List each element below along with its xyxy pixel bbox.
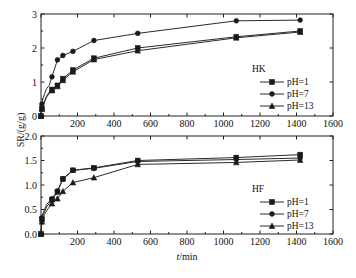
x-tick-label: 1200 — [250, 118, 270, 129]
data-point — [61, 53, 66, 58]
legend-hf: HFpH=1pH=7pH=13 — [252, 184, 314, 231]
legend-marker — [270, 200, 275, 205]
hk-plot-svg: 20040060080010001200140016000123HKpH=1pH… — [0, 0, 356, 140]
figure-root: 20040060080010001200140016000123HKpH=1pH… — [0, 0, 356, 278]
legend-title: HK — [252, 64, 266, 74]
x-tick-label: 800 — [180, 236, 195, 247]
x-tick-label: 1200 — [250, 236, 270, 247]
legend-label: pH=7 — [287, 89, 309, 99]
data-point — [50, 75, 55, 80]
y-tick-label: 3 — [32, 9, 37, 20]
y-tick-label: 2 — [32, 43, 37, 54]
x-tick-label: 600 — [143, 118, 158, 129]
data-point — [71, 168, 76, 173]
legend-label: pH=1 — [287, 77, 309, 87]
x-tick-label: 1400 — [287, 118, 307, 129]
x-tick-label: 1600 — [323, 118, 343, 129]
chart-panel-hf: 20040060080010001200140016000.00.51.01.5… — [0, 130, 356, 278]
y-tick-label: 0.0 — [25, 229, 38, 240]
y-tick-label: 0.5 — [25, 204, 38, 215]
x-tick-label: 400 — [107, 236, 122, 247]
series-pH13 — [38, 157, 303, 236]
legend-label: pH=13 — [287, 221, 314, 231]
chart-panel-hk: 20040060080010001200140016000123HKpH=1pH… — [0, 0, 356, 140]
hf-plot-svg: 20040060080010001200140016000.00.51.01.5… — [0, 130, 356, 278]
x-tick-label: 200 — [70, 118, 85, 129]
data-point — [92, 38, 97, 43]
legend-marker — [270, 80, 275, 85]
x-axis-title-unit: /min — [179, 251, 197, 262]
x-axis-title: t/min — [176, 251, 197, 262]
data-point — [135, 31, 140, 36]
y-tick-label: 1.0 — [25, 180, 38, 191]
series-line — [41, 158, 300, 234]
data-point — [234, 18, 239, 23]
data-point — [55, 188, 60, 193]
x-tick-label: 600 — [143, 236, 158, 247]
legend-hk: HKpH=1pH=7pH=13 — [252, 64, 314, 111]
series-pH1 — [39, 152, 303, 236]
series-line — [41, 160, 300, 234]
x-tick-label: 200 — [70, 236, 85, 247]
legend-label: pH=7 — [287, 209, 309, 219]
data-point — [55, 58, 60, 63]
y-axis-label-text: SR/(g/g) — [15, 113, 26, 147]
x-tick-label: 400 — [107, 118, 122, 129]
data-point — [298, 18, 303, 23]
legend-label: pH=1 — [287, 197, 309, 207]
legend-label: pH=13 — [287, 101, 314, 111]
data-point — [71, 49, 76, 54]
legend-title: HF — [252, 184, 264, 194]
legend-marker — [270, 92, 275, 97]
plot-frame — [41, 136, 333, 234]
x-tick-label: 1000 — [214, 236, 234, 247]
x-tick-label: 1400 — [287, 236, 307, 247]
shared-y-axis-label: SR/(g/g) — [15, 85, 35, 175]
x-tick-label: 1600 — [323, 236, 343, 247]
x-tick-label: 800 — [180, 118, 195, 129]
legend-marker — [270, 212, 275, 217]
series-line — [41, 155, 300, 234]
x-tick-label: 1000 — [214, 118, 234, 129]
data-point — [92, 166, 97, 171]
data-point — [61, 176, 66, 181]
series-pH7 — [39, 156, 303, 237]
